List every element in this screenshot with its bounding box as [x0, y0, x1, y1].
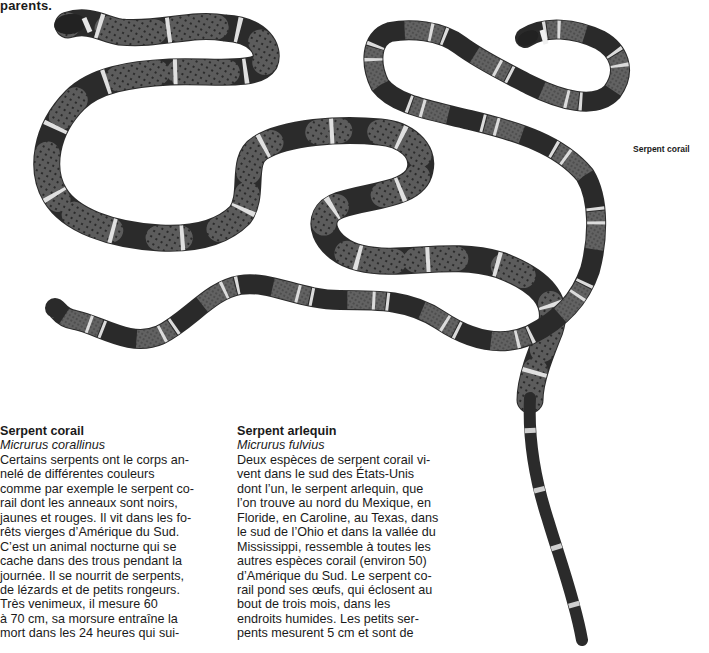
body-line: Certains serpents ont le corps an- — [0, 453, 232, 467]
body-line: Floride, en Caroline, au Texas, dans — [237, 511, 499, 525]
illustration-caption: Serpent corail — [633, 144, 690, 154]
article-body: Certains serpents ont le corps an- nelé … — [0, 453, 232, 641]
body-line: journée. Il se nourrit de serpents, — [0, 569, 232, 583]
article-title: Serpent arlequin — [237, 424, 499, 438]
body-line: endroits humides. Les petits ser- — [237, 612, 499, 626]
body-line: rail pond ses œufs, qui éclosent au — [237, 583, 499, 597]
body-line: Mississippi, ressemble à toutes les — [237, 540, 499, 554]
body-line: mort dans les 24 heures qui sui- — [0, 626, 232, 640]
body-line: bout de trois mois, dans les — [237, 597, 499, 611]
article-serpent-corail: Serpent corail Micrurus corallinus Certa… — [0, 424, 232, 641]
body-line: cache dans des trous pendant la — [0, 554, 232, 568]
article-title: Serpent corail — [0, 424, 232, 438]
body-line: de lézards et de petits rongeurs. — [0, 583, 232, 597]
article-body: Deux espèces de serpent corail vi- vent … — [237, 453, 499, 641]
body-line: autres espèces corail (environ 50) — [237, 554, 499, 568]
latin-name: Micrurus corallinus — [0, 438, 232, 452]
body-line: d’Amérique du Sud. Le serpent co- — [237, 569, 499, 583]
body-line: Deux espèces de serpent corail vi- — [237, 453, 499, 467]
latin-name: Micrurus fulvius — [237, 438, 499, 452]
body-line: comme par exemple le serpent co- — [0, 482, 232, 496]
body-line: à 70 cm, sa morsure entraîne la — [0, 612, 232, 626]
body-line: C’est un animal nocturne qui se — [0, 540, 232, 554]
body-line: rêts vierges d’Amérique du Sud. — [0, 525, 232, 539]
body-line: jaunes et rouges. Il vit dans les fo- — [0, 511, 232, 525]
body-line: dont l’un, le serpent arlequin, que — [237, 482, 499, 496]
body-line: nelé de différentes couleurs — [0, 467, 232, 481]
article-serpent-arlequin: Serpent arlequin Micrurus fulvius Deux e… — [237, 424, 499, 641]
body-line: l’on trouve au nord du Mexique, en — [237, 496, 499, 510]
body-line: le sud de l’Ohio et dans la vallée du — [237, 525, 499, 539]
body-line: rail dont les anneaux sont noirs, — [0, 496, 232, 510]
body-line: vent dans le sud des États-Unis — [237, 467, 499, 481]
body-line: pents mesurent 5 cm et sont de — [237, 626, 499, 640]
body-line: Très venimeux, il mesure 60 — [0, 597, 232, 611]
